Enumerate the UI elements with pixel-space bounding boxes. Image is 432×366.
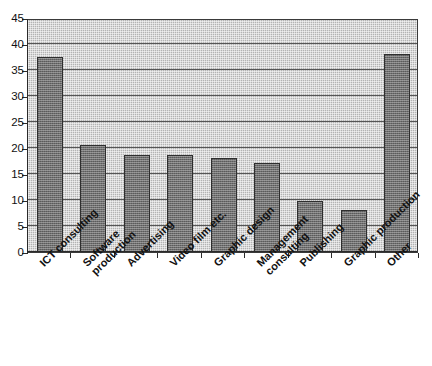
bar-chart: 051015202530354045 ICT consultingSoftwar… bbox=[0, 0, 432, 366]
x-axis-label-7: Graphic production bbox=[342, 189, 422, 269]
x-axis-label-1: Softwareproduction bbox=[81, 220, 138, 277]
x-axis-labels: ICT consultingSoftwareproductionAdvertis… bbox=[0, 0, 432, 366]
x-label-line: Graphic production bbox=[341, 188, 422, 269]
x-axis-label-8: Other bbox=[385, 240, 414, 269]
x-label-line: Other bbox=[385, 240, 414, 269]
